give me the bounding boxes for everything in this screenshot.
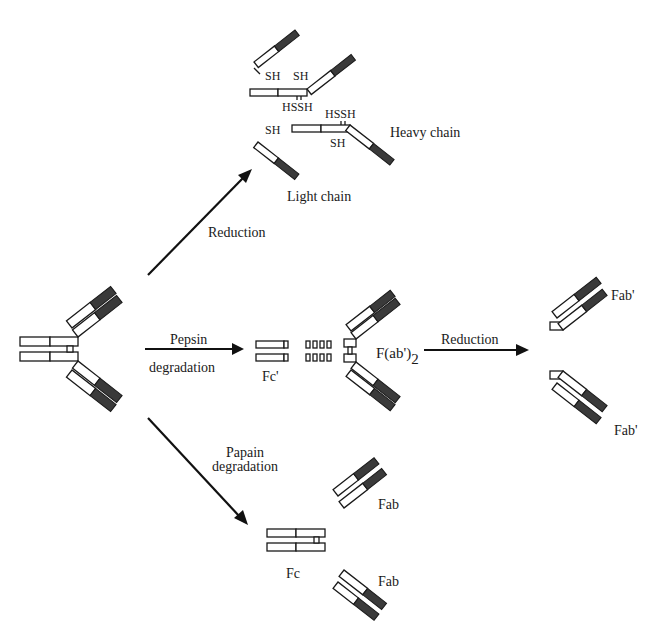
fc-prime-label: Fc' bbox=[262, 369, 279, 384]
fab2-label: F(ab')2 bbox=[376, 345, 419, 367]
papain-degradation-label: degradation bbox=[212, 459, 278, 474]
sh-label-2: SH bbox=[293, 69, 309, 83]
fab-prime-top-label: Fab' bbox=[611, 288, 635, 303]
sh-label-3: SH bbox=[265, 123, 281, 137]
reduced-chains bbox=[250, 30, 394, 180]
papain-label: Papain bbox=[226, 445, 264, 460]
intact-antibody bbox=[20, 286, 122, 411]
fab2-label-subscript: 2 bbox=[411, 351, 419, 367]
fc-prime-fragments bbox=[256, 341, 288, 361]
sh-label-1: SH bbox=[265, 69, 281, 83]
pepsin-label: Pepsin bbox=[170, 332, 207, 347]
small-peptides bbox=[306, 341, 331, 361]
fab-top-label: Fab bbox=[378, 497, 399, 512]
reduction-label-right: Reduction bbox=[441, 332, 499, 347]
pepsin-degradation-label: degradation bbox=[149, 360, 215, 375]
fab-prime-bottom-label: Fab' bbox=[614, 423, 638, 438]
fc-fragment bbox=[267, 529, 325, 551]
fab2-label-main: F(ab') bbox=[376, 345, 411, 362]
hssh-label-1: HSSH bbox=[282, 100, 313, 114]
hssh-label-2: HSSH bbox=[325, 107, 356, 121]
heavy-chain-label: Heavy chain bbox=[390, 125, 460, 140]
reduction-arrow-top bbox=[148, 169, 252, 275]
reduction-label-top: Reduction bbox=[208, 225, 266, 240]
antibody-fragmentation-diagram: SH SH HSSH HSSH SH SH Heavy chain Light … bbox=[0, 0, 657, 641]
fab-prime-bottom bbox=[550, 371, 607, 424]
light-chain-label: Light chain bbox=[287, 189, 351, 204]
fab-prime-top bbox=[550, 277, 607, 330]
fc-label: Fc bbox=[286, 566, 300, 581]
fab-bottom-label: Fab bbox=[378, 574, 399, 589]
sh-label-4: SH bbox=[330, 136, 346, 150]
